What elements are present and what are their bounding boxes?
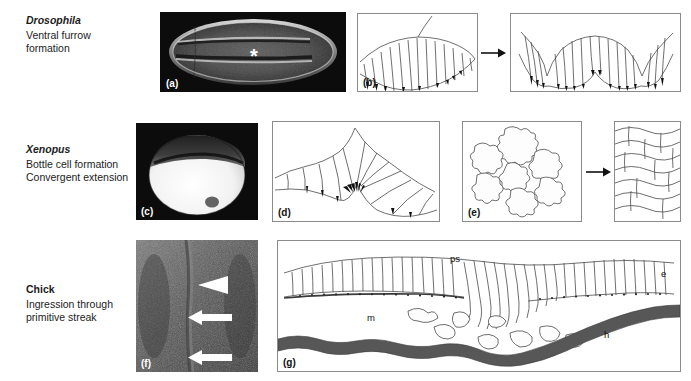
panel-label-c: (c) <box>141 206 153 217</box>
panel-f-micrograph: (f) <box>136 240 258 372</box>
elongated-cells-after-intercalation <box>615 122 680 221</box>
panel-e-left-diagram: (e) <box>462 121 582 222</box>
panel-b-left-diagram: (b) <box>357 13 478 92</box>
figure-plate: Drosophila Ventral furrow formation <box>0 0 691 381</box>
annotation-h: h <box>604 329 609 340</box>
panel-label-a: (a) <box>166 78 178 89</box>
xenopus-embryo-image <box>136 123 258 220</box>
species-name-drosophila: Drosophila <box>26 14 156 28</box>
chick-streak-section-drawing <box>278 241 680 371</box>
panel-c-micrograph: (c) <box>136 123 258 220</box>
ventral-furrow-late-drawing <box>511 14 680 91</box>
panel-a-micrograph: * (a) <box>160 12 346 92</box>
panel-label-b: (b) <box>363 77 376 88</box>
annotation-ps: ps <box>450 253 460 264</box>
row-caption-drosophila: Drosophila Ventral furrow formation <box>26 14 156 56</box>
panel-label-f: (f) <box>141 358 151 369</box>
annotation-e: e <box>661 268 666 279</box>
chick-primitive-streak-image <box>136 240 258 372</box>
panel-label-e: (e) <box>468 207 480 218</box>
panel-b-right-diagram <box>510 13 681 92</box>
arrow-e-progression <box>586 166 612 178</box>
bottle-cells-drawing <box>273 122 439 221</box>
ventral-furrow-early-drawing <box>358 14 477 91</box>
drosophila-embryo-image: * <box>160 12 346 92</box>
arrow-b-progression <box>481 47 507 59</box>
process-line: formation <box>26 42 156 56</box>
annotation-m: m <box>367 312 375 323</box>
asterisk-marker: * <box>250 45 258 67</box>
panel-label-d: (d) <box>278 207 291 218</box>
panel-g-diagram: (g) ps e m h <box>277 240 681 372</box>
panel-e-right-diagram <box>614 121 681 222</box>
process-line: Ventral furrow <box>26 29 156 43</box>
panel-d-diagram: (d) <box>272 121 440 222</box>
irregular-cells-before-intercalation <box>463 122 581 221</box>
panel-label-g: (g) <box>283 357 296 368</box>
